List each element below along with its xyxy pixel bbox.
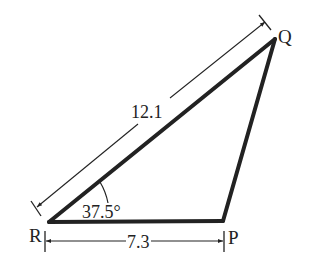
triangle-diagram: Q R P 12.1 37.5° 7.3 [0,0,313,266]
vertex-label-p: P [228,227,239,248]
side-rp [49,221,223,222]
angle-r-measure: 37.5° [82,202,121,222]
extension-tick-r [31,201,41,216]
vertex-label-r: R [29,225,42,246]
triangle [49,39,275,222]
side-qp [223,39,275,221]
side-rq [49,39,275,222]
side-rq-length: 12.1 [131,102,163,122]
dimension-line-rq-lower [37,124,138,207]
side-rp-length: 7.3 [127,232,150,252]
vertex-label-q: Q [278,26,292,47]
angle-arc-r [100,182,108,203]
